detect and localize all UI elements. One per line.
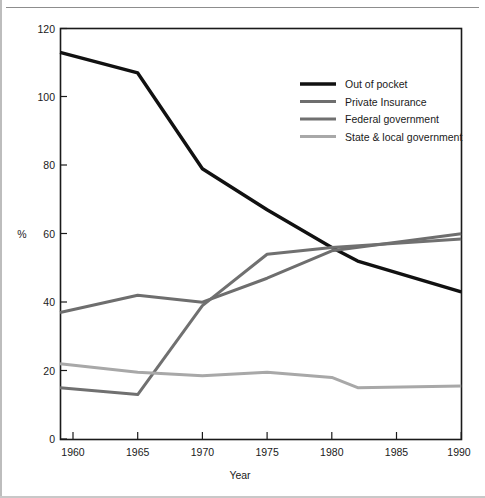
line-chart-figure: 0 20 40 60 80 100 120 % 1960 1965 1970	[0, 0, 485, 498]
chart-svg: 0 20 40 60 80 100 120 % 1960 1965 1970	[0, 0, 485, 498]
x-tick-label-1975: 1975	[255, 446, 279, 458]
y-tick-label-120: 120	[37, 23, 55, 35]
y-axis-title: %	[17, 228, 26, 240]
x-axis-title: Year	[229, 469, 251, 481]
legend-label-1: Out of pocket	[345, 78, 408, 90]
legend-label-2: Private Insurance	[345, 96, 427, 108]
x-tick-label-1965: 1965	[126, 446, 150, 458]
legend-label-3: Federal government	[345, 113, 439, 125]
scanned-page: 0 20 40 60 80 100 120 % 1960 1965 1970	[0, 0, 485, 498]
x-axis-ticks	[73, 432, 461, 439]
x-tick-label-1990: 1990	[447, 446, 471, 458]
plot-frame	[61, 29, 462, 440]
x-tick-label-1985: 1985	[385, 446, 409, 458]
chart-legend: Out of pocketPrivate InsuranceFederal go…	[300, 78, 462, 143]
y-tick-label-20: 20	[43, 365, 55, 377]
y-tick-label-0: 0	[49, 433, 55, 445]
x-tick-label-1960: 1960	[61, 446, 85, 458]
x-tick-label-1970: 1970	[191, 446, 215, 458]
y-tick-label-100: 100	[37, 91, 55, 103]
legend-label-4: State & local government	[345, 131, 462, 143]
y-tick-label-40: 40	[43, 296, 55, 308]
series-line-state-local-government	[60, 364, 461, 388]
y-tick-label-80: 80	[43, 159, 55, 171]
y-axis-ticks	[61, 29, 68, 440]
x-tick-label-1980: 1980	[320, 446, 344, 458]
y-tick-label-60: 60	[43, 228, 55, 240]
